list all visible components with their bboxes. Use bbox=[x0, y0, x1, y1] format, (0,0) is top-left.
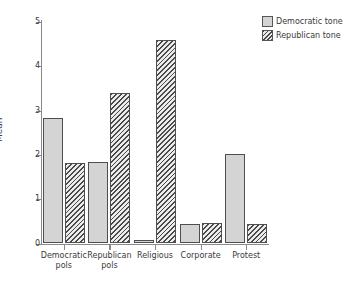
y-axis-tick-label: 1 bbox=[20, 194, 40, 203]
y-axis-tick-label: 4 bbox=[20, 61, 40, 70]
legend-swatch-hatch-icon bbox=[262, 30, 273, 41]
bar-democratic bbox=[88, 162, 108, 244]
bar-democratic bbox=[43, 118, 63, 244]
legend-swatch-solid-icon bbox=[262, 16, 273, 27]
legend-item-democratic: Democratic tone bbox=[262, 15, 343, 27]
bar-republican bbox=[247, 224, 267, 243]
bar-republican bbox=[202, 223, 222, 244]
bar-democratic bbox=[225, 154, 245, 244]
y-axis-tick-label: 0 bbox=[20, 239, 40, 248]
legend-label-republican: Republican tone bbox=[276, 30, 341, 41]
legend-label-democratic: Democratic tone bbox=[276, 16, 343, 27]
chart-legend: Democratic tone Republican tone bbox=[262, 15, 343, 41]
bar-democratic bbox=[134, 240, 154, 244]
x-axis-tick-label: Protest bbox=[216, 251, 276, 261]
bar-republican bbox=[156, 40, 176, 243]
x-axis-tick bbox=[201, 245, 202, 250]
x-axis-tick bbox=[155, 245, 156, 250]
x-axis-tick bbox=[246, 245, 247, 250]
bar-chart: Mean 012345Democratic polsRepublican pol… bbox=[0, 0, 348, 283]
bar-republican bbox=[110, 93, 130, 244]
legend-item-republican: Republican tone bbox=[262, 29, 343, 41]
x-axis-tick bbox=[109, 245, 110, 250]
y-axis-title: Mean bbox=[0, 82, 4, 142]
y-axis-tick-label: 5 bbox=[20, 17, 40, 26]
x-axis-tick bbox=[64, 245, 65, 250]
y-axis-tick-label: 2 bbox=[20, 150, 40, 159]
bar-democratic bbox=[180, 224, 200, 243]
bar-republican bbox=[65, 163, 85, 244]
y-axis-tick-label: 3 bbox=[20, 106, 40, 115]
